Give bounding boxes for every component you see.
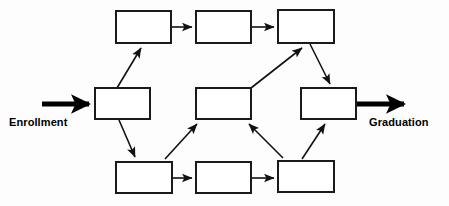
flow-diagram xyxy=(0,0,449,206)
node-box-bot-3[interactable] xyxy=(278,161,334,192)
node-box-bot-1[interactable] xyxy=(116,162,172,193)
node-box-mid-right[interactable] xyxy=(301,88,356,119)
edge-bot-3-to-mid-center xyxy=(249,124,283,158)
edge-bot-1-to-mid-center xyxy=(165,124,197,159)
node-box-top-3[interactable] xyxy=(278,10,334,43)
edge-mid-left-to-bot-1 xyxy=(119,120,135,157)
enrollment-label: Enrollment xyxy=(9,116,67,128)
node-box-bot-2[interactable] xyxy=(196,162,251,193)
diagram-canvas: Enrollment Graduation xyxy=(0,0,449,206)
edge-mid-left-to-top-1 xyxy=(117,48,141,88)
node-box-top-1[interactable] xyxy=(116,11,171,43)
node-box-mid-center[interactable] xyxy=(196,88,251,119)
node-box-mid-left[interactable] xyxy=(95,88,150,119)
node-box-top-2[interactable] xyxy=(196,11,251,43)
edge-bot-3-to-mid-right xyxy=(302,124,325,159)
edge-mid-center-to-top-3 xyxy=(251,48,302,88)
edge-top-3-to-mid-right xyxy=(310,44,330,84)
graduation-label: Graduation xyxy=(369,116,429,128)
